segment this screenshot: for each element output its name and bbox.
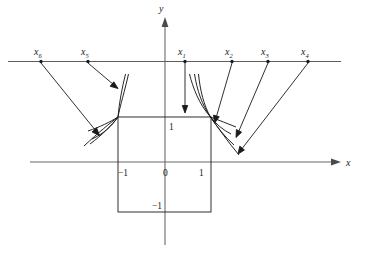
dot-x1 — [183, 60, 186, 63]
label-x1: x1 — [177, 46, 186, 59]
label-x5: x5 — [80, 46, 89, 59]
arrow-x6 — [41, 63, 100, 136]
label-x6-sub: 6 — [38, 52, 42, 59]
arrow-x3 — [236, 63, 268, 138]
tick-label-y-neg-one: −1 — [152, 201, 162, 211]
label-x1-sub: 1 — [182, 52, 185, 59]
dot-x4 — [306, 60, 309, 63]
label-x2: x2 — [224, 46, 233, 59]
tick-label-x-neg-one: −1 — [118, 168, 128, 178]
dot-x3 — [266, 60, 269, 63]
label-x2-sub: 2 — [229, 52, 233, 59]
label-x4-sub: 4 — [305, 52, 309, 59]
arrow-x2 — [214, 63, 233, 123]
point-labels-group: x6 x5 x1 x2 x3 x4 — [33, 46, 309, 59]
x-axis-arrowhead — [331, 159, 341, 166]
arrow-x5 — [88, 63, 118, 89]
tick-label-origin: 0 — [163, 168, 168, 178]
curves-left-group — [84, 74, 129, 146]
math-diagram: x6 x5 x1 x2 x3 x4 y x −1 0 1 1 −1 — [0, 0, 365, 253]
dot-x6 — [39, 60, 42, 63]
figure-container: x6 x5 x1 x2 x3 x4 y x −1 0 1 1 −1 — [0, 0, 365, 253]
label-x5-sub: 5 — [85, 52, 89, 59]
x-axis-label: x — [345, 157, 351, 168]
label-x4: x4 — [300, 46, 309, 59]
y-axis-label: y — [158, 3, 164, 14]
tick-label-y-pos-one: 1 — [169, 122, 174, 132]
tick-label-x-pos-one: 1 — [199, 168, 204, 178]
dot-x2 — [230, 60, 233, 63]
arrow-x1 — [182, 63, 187, 113]
pointer-arrows-group — [41, 63, 308, 154]
curve-3 — [199, 74, 235, 145]
label-x6: x6 — [33, 46, 42, 59]
curve-10 — [84, 117, 118, 146]
label-x3: x3 — [260, 46, 269, 59]
label-x3-sub: 3 — [264, 52, 269, 59]
y-axis-arrowhead — [162, 17, 169, 27]
curves-right-group — [190, 74, 240, 155]
dot-x5 — [86, 60, 89, 63]
